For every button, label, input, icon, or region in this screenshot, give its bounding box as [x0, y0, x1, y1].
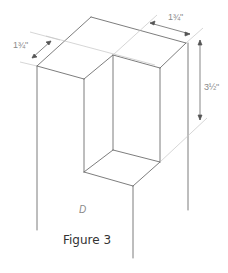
part-label: D — [79, 204, 86, 215]
notch-bottom-front — [84, 172, 133, 186]
construction-line-top — [46, 36, 155, 65]
extension-line-mid — [113, 15, 157, 55]
notch-bottom-back — [113, 150, 160, 162]
dimension-line-top — [150, 23, 190, 34]
notch-bottom-right — [133, 162, 160, 186]
arrow-head — [198, 115, 202, 120]
arrow-head — [150, 21, 155, 25]
extension-line-right-bottom — [160, 118, 207, 162]
notch-top-left — [84, 55, 113, 79]
dimension-right-width: 1¾" — [168, 12, 183, 22]
isometric-block-drawing — [0, 0, 228, 273]
arrow-head — [198, 40, 202, 45]
top-edge-right — [160, 43, 186, 68]
figure-caption: Figure 3 — [63, 233, 111, 247]
arrow-head — [185, 32, 190, 36]
notch-bottom-left — [84, 150, 113, 172]
top-edge-left-back — [37, 17, 91, 66]
extension-line-left-bottom — [20, 62, 37, 66]
top-edge-left-front — [37, 66, 84, 79]
extension-line-left-top — [30, 32, 60, 40]
dimension-left-width: 1¾" — [13, 40, 28, 50]
dimension-height: 3½" — [204, 82, 219, 92]
notch-top-right — [113, 55, 160, 68]
